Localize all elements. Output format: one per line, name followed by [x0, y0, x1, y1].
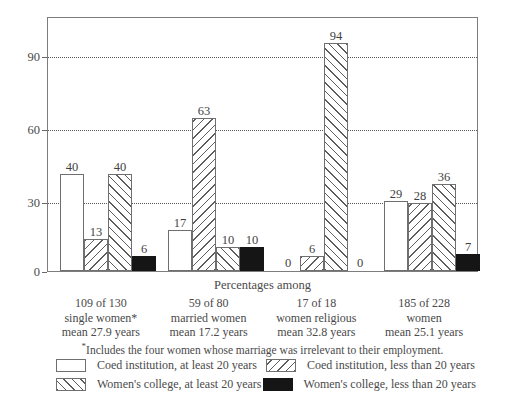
legend-row: Women's college, at least 20 years Women… [56, 375, 476, 394]
bar-coed-at-least-20[interactable]: 40 [60, 174, 84, 271]
bar-value: 40 [114, 161, 127, 174]
group-label-single-women: 109 of 130 single women* mean 27.9 years [47, 296, 155, 340]
footnote-text: Includes the four women whose marriage w… [86, 344, 443, 356]
legend-swatch-empty-icon [56, 359, 86, 372]
bar-value: 36 [438, 171, 451, 184]
plot-area: 40 13 40 6 17 63 [47, 17, 478, 272]
bar-coed-at-least-20[interactable]: 17 [168, 230, 192, 271]
legend-label: Coed institution, less than 20 years [307, 358, 475, 373]
bar-coed-less-than-20[interactable]: 13 [84, 239, 108, 271]
group-name: women [370, 311, 478, 326]
legend-item-coed-less-than-20[interactable]: Coed institution, less than 20 years [266, 358, 476, 373]
bar-womens-less-than-20[interactable]: 7 [456, 254, 480, 271]
group-count: 109 of 130 [47, 296, 155, 311]
group-count: 17 of 18 [263, 296, 371, 311]
bar-womens-at-least-20[interactable]: 10 [216, 247, 240, 271]
y-tick-label-0: 0 [14, 265, 40, 280]
bar-womens-at-least-20[interactable]: 40 [108, 174, 132, 271]
group-name: single women* [47, 311, 155, 326]
bar-value: 13 [90, 226, 103, 239]
bar-group-women-religious: 0 6 94 0 [276, 18, 373, 271]
legend-label: Women's college, at least 20 years [97, 377, 261, 392]
bar-value: 28 [414, 190, 427, 203]
group-label-married-women: 59 of 80 married women mean 17.2 years [155, 296, 263, 340]
group-mean: mean 27.9 years [47, 325, 155, 340]
footnote: *Includes the four women whose marriage … [47, 341, 478, 356]
bar-womens-less-than-20[interactable]: 10 [240, 247, 264, 271]
bar-group-all-women: 29 28 36 7 [384, 18, 481, 271]
legend-row: Coed institution, at least 20 years Coed… [56, 356, 476, 375]
bar-value: 63 [198, 105, 211, 118]
bar-coed-at-least-20[interactable]: 29 [384, 201, 408, 271]
legend-item-womens-at-least-20[interactable]: Women's college, at least 20 years [56, 377, 263, 392]
bar-value: 6 [309, 243, 315, 256]
x-axis-caption: Percentages among [47, 278, 478, 293]
bar-value: 40 [66, 161, 79, 174]
bar-value: 10 [246, 234, 259, 247]
y-tick-label-90: 90 [14, 50, 40, 65]
bar-coed-less-than-20[interactable]: 63 [192, 118, 216, 271]
y-tick-mark-0 [42, 272, 47, 273]
legend-item-womens-less-than-20[interactable]: Women's college, less than 20 years [263, 377, 476, 392]
y-tick-label-60: 60 [14, 123, 40, 138]
bar-coed-less-than-20[interactable]: 6 [300, 256, 324, 271]
bar-value: 29 [390, 188, 403, 201]
bar-value: 17 [174, 217, 187, 230]
group-count: 185 of 228 [370, 296, 478, 311]
bar-womens-less-than-20[interactable]: 6 [132, 256, 156, 271]
y-tick-label-30: 30 [14, 196, 40, 211]
group-name: women religious [263, 311, 371, 326]
bar-value: 0 [285, 257, 291, 270]
legend-label: Coed institution, at least 20 years [97, 358, 257, 373]
group-mean: mean 17.2 years [155, 325, 263, 340]
bar-chart-figure: 0 30 60 90 40 13 40 [0, 0, 512, 417]
bar-womens-at-least-20[interactable]: 36 [432, 184, 456, 271]
bar-womens-at-least-20[interactable]: 94 [324, 43, 348, 271]
bar-value: 10 [222, 234, 235, 247]
group-name: married women [155, 311, 263, 326]
bars-layer: 40 13 40 6 17 63 [48, 18, 477, 271]
bar-group-single-women: 40 13 40 6 [60, 18, 157, 271]
x-axis-group-labels: 109 of 130 single women* mean 27.9 years… [47, 296, 478, 340]
legend-swatch-backslash-hatch-icon [266, 359, 296, 372]
bar-value: 0 [357, 257, 363, 270]
legend-swatch-solid-icon [263, 378, 293, 391]
legend-label: Women's college, less than 20 years [304, 377, 476, 392]
legend: Coed institution, at least 20 years Coed… [56, 356, 476, 394]
group-mean: mean 32.8 years [263, 325, 371, 340]
bar-group-married-women: 17 63 10 10 [168, 18, 265, 271]
group-label-women-religious: 17 of 18 women religious mean 32.8 years [263, 296, 371, 340]
legend-item-coed-at-least-20[interactable]: Coed institution, at least 20 years [56, 358, 266, 373]
bar-coed-less-than-20[interactable]: 28 [408, 203, 432, 271]
group-count: 59 of 80 [155, 296, 263, 311]
bar-value: 6 [141, 243, 147, 256]
group-mean: mean 25.1 years [370, 325, 478, 340]
bar-value: 7 [465, 241, 471, 254]
bar-value: 94 [330, 30, 343, 43]
legend-swatch-forwardslash-hatch-icon [56, 378, 86, 391]
group-label-all-women: 185 of 228 women mean 25.1 years [370, 296, 478, 340]
